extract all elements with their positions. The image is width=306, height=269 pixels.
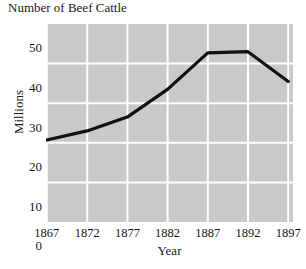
y-tick-label: 20 (2, 160, 42, 173)
x-axis-tick-labels: 1867 1872 1877 1882 1887 1892 1897 (46, 226, 293, 244)
x-tick-label: 1897 (266, 226, 306, 241)
grid-lines (46, 24, 293, 222)
x-axis-title: Year (46, 243, 293, 259)
chart-title: Number of Beef Cattle (8, 0, 127, 16)
y-tick-label: 0 (2, 239, 42, 252)
y-axis-title: Millions (11, 72, 27, 152)
plot-area (46, 24, 293, 222)
x-tick-label: 1887 (186, 226, 230, 241)
y-tick-label: 10 (2, 200, 42, 213)
x-tick-label: 1877 (105, 226, 149, 241)
y-tick-label: 50 (2, 41, 42, 54)
x-tick-label: 1867 (25, 226, 69, 241)
x-tick-label: 1882 (146, 226, 190, 241)
x-tick-label: 1872 (65, 226, 109, 241)
x-tick-label: 1892 (226, 226, 270, 241)
chart-canvas (46, 24, 293, 222)
chart-figure: Number of Beef Cattle 50 40 30 20 10 0 (0, 0, 306, 269)
